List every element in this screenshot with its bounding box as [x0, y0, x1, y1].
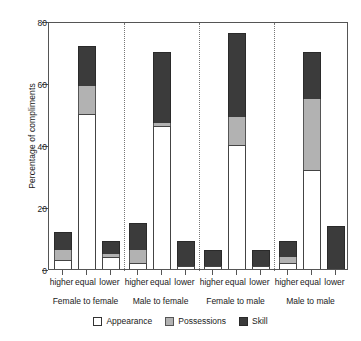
group-separator: [274, 23, 275, 271]
x-tick-label-lower: lower: [249, 277, 269, 287]
x-tick-mark: [185, 270, 186, 275]
stacked-bar: [327, 226, 345, 269]
x-tick-mark: [311, 270, 312, 275]
bar-segment-skill: [204, 250, 222, 266]
x-tick-mark: [236, 270, 237, 275]
bar-segment-skill: [327, 226, 345, 269]
stacked-bar: [153, 52, 171, 269]
y-axis-title: Percentage of compliments: [27, 46, 37, 226]
legend-label: Possessions: [178, 316, 226, 326]
group-label: Male to female: [133, 296, 189, 306]
x-tick-mark: [137, 270, 138, 275]
bar-segment-appearance: [153, 126, 171, 269]
bar-segment-skill: [228, 33, 246, 117]
stacked-bar-chart-figure: Percentage of compliments 020406080 high…: [0, 0, 361, 341]
x-tick-label-lower: lower: [324, 277, 344, 287]
x-tick-label-higher: higher: [50, 277, 74, 287]
bar-segment-possessions: [303, 99, 321, 170]
bar-segment-possessions: [129, 250, 147, 262]
stacked-bar: [228, 33, 246, 269]
stacked-bar: [252, 250, 270, 269]
legend-label: Skill: [252, 316, 268, 326]
legend-item: Skill: [239, 316, 268, 326]
chart-legend: AppearancePossessionsSkill: [0, 316, 361, 326]
x-tick-mark: [212, 270, 213, 275]
group-label: Female to female: [53, 296, 119, 306]
bar-segment-possessions: [78, 86, 96, 114]
stacked-bar: [279, 241, 297, 269]
y-tick-label: 20: [23, 204, 47, 214]
bar-segment-skill: [54, 232, 72, 251]
legend-swatch-skill: [239, 317, 248, 326]
x-tick-label-equal: equal: [150, 277, 171, 287]
x-tick-label-equal: equal: [75, 277, 96, 287]
x-tick-label-higher: higher: [125, 277, 149, 287]
bar-segment-appearance: [204, 266, 222, 269]
group-label: Female to male: [206, 296, 265, 306]
x-tick-mark: [62, 270, 63, 275]
bar-segment-appearance: [177, 266, 195, 269]
bar-segment-appearance: [54, 260, 72, 269]
bar-segment-skill: [153, 52, 171, 123]
bar-segment-skill: [129, 223, 147, 251]
y-tick-label: 60: [23, 80, 47, 90]
stacked-bar: [204, 250, 222, 269]
bar-segment-appearance: [252, 266, 270, 269]
bar-segment-skill: [303, 52, 321, 99]
x-tick-label-equal: equal: [300, 277, 321, 287]
stacked-bar: [102, 241, 120, 269]
x-tick-mark: [86, 270, 87, 275]
bar-segment-appearance: [129, 263, 147, 269]
bar-segment-skill: [279, 241, 297, 257]
legend-swatch-appearance: [93, 317, 102, 326]
x-tick-label-higher: higher: [275, 277, 299, 287]
x-tick-mark: [335, 270, 336, 275]
x-tick-mark: [287, 270, 288, 275]
legend-item: Appearance: [93, 316, 152, 326]
x-tick-label-lower: lower: [99, 277, 119, 287]
x-tick-mark: [110, 270, 111, 275]
bar-segment-skill: [102, 241, 120, 253]
bar-segment-appearance: [102, 257, 120, 269]
legend-swatch-possessions: [165, 317, 174, 326]
bar-segment-appearance: [228, 145, 246, 269]
x-tick-mark: [161, 270, 162, 275]
bar-segment-appearance: [279, 263, 297, 269]
x-tick-label-higher: higher: [200, 277, 224, 287]
x-tick-label-equal: equal: [225, 277, 246, 287]
stacked-bar: [78, 46, 96, 269]
bar-segment-possessions: [54, 250, 72, 259]
x-tick-mark: [260, 270, 261, 275]
x-tick-label-lower: lower: [174, 277, 194, 287]
y-tick-label: 0: [23, 266, 47, 276]
plot-area: [48, 22, 348, 270]
legend-item: Possessions: [165, 316, 226, 326]
legend-label: Appearance: [106, 316, 152, 326]
group-separator: [199, 23, 200, 271]
bar-segment-appearance: [78, 114, 96, 269]
stacked-bar: [54, 232, 72, 269]
group-label: Male to male: [286, 296, 335, 306]
group-separator: [124, 23, 125, 271]
y-tick-label: 80: [23, 18, 47, 28]
bar-segment-skill: [252, 250, 270, 266]
bar-segment-skill: [177, 241, 195, 266]
stacked-bar: [177, 241, 195, 269]
y-tick-label: 40: [23, 142, 47, 152]
bar-segment-possessions: [228, 117, 246, 145]
stacked-bar: [129, 223, 147, 269]
stacked-bar: [303, 52, 321, 269]
bar-segment-skill: [78, 46, 96, 86]
bar-segment-appearance: [303, 170, 321, 269]
